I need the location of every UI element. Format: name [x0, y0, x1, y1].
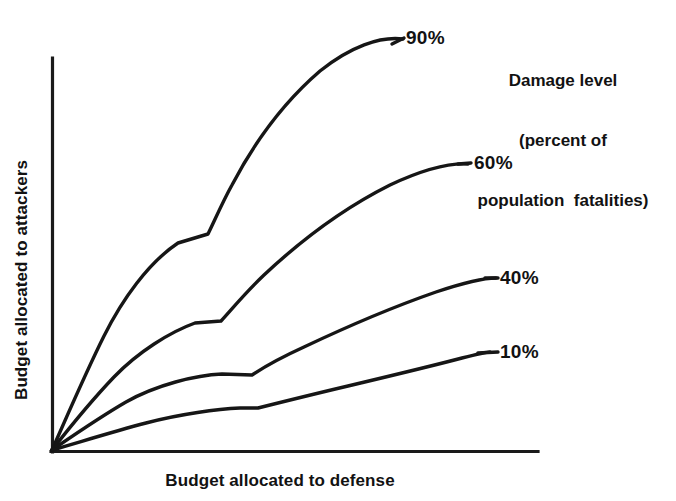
series-label-10: 10%	[500, 341, 539, 363]
legend-title-line-3: population fatalities)	[455, 191, 671, 211]
legend-title-line-1: Damage level	[455, 71, 671, 91]
curve-10	[52, 352, 490, 450]
curve-40	[52, 278, 496, 450]
leader-line-10	[478, 352, 498, 353]
series-label-90: 90%	[406, 27, 445, 49]
x-axis-label: Budget allocated to defense	[0, 471, 560, 491]
legend-title: Damage level (percent of population fata…	[455, 31, 671, 252]
legend-title-line-2: (percent of	[455, 131, 671, 151]
series-label-40: 40%	[500, 267, 539, 289]
y-axis-label: Budget allocated to attackers	[12, 60, 46, 400]
chart-figure: Budget allocated to attackers Budget all…	[0, 0, 676, 501]
